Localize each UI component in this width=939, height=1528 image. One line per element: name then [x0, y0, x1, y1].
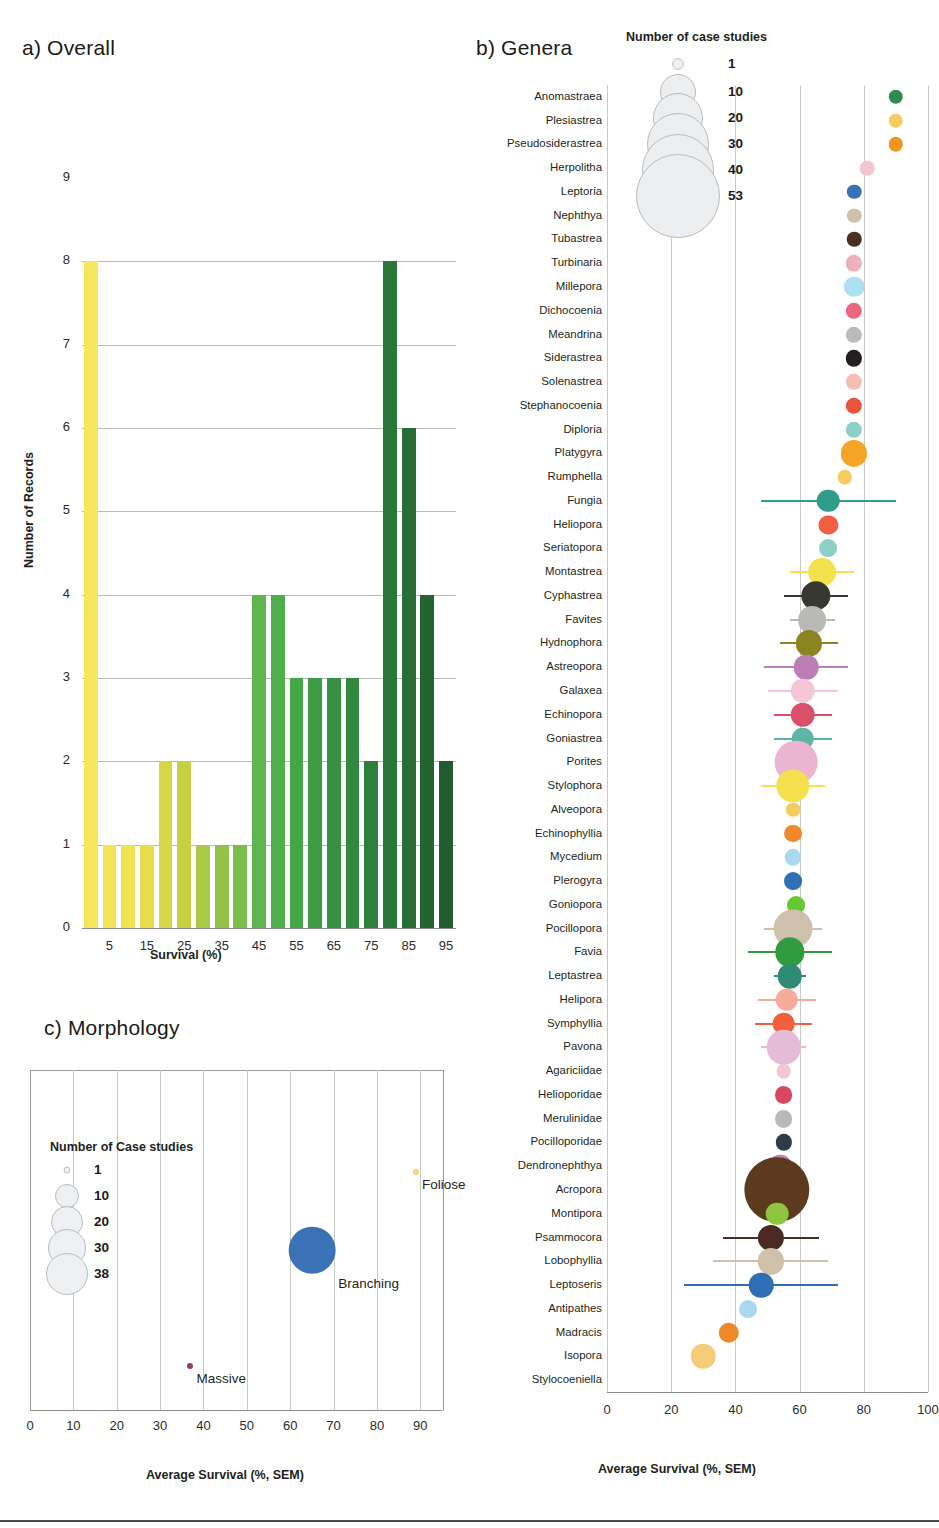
panel-b-bubble — [846, 421, 862, 437]
panel-c-x-tick: 0 — [10, 1418, 50, 1433]
panel-b-legend-bubble — [636, 154, 720, 238]
panel-b-bubble — [846, 303, 862, 319]
panel-a-bar — [196, 845, 210, 928]
panel-b-bubble — [847, 208, 862, 223]
panel-a-title: a) Overall — [22, 36, 115, 60]
panel-a-gridline — [82, 845, 456, 846]
panel-b-genus-label: Isopora — [467, 1350, 602, 1361]
panel-a-y-tick: 6 — [24, 419, 70, 434]
panel-c-gridline — [420, 1070, 421, 1410]
panel-b-genus-label: Heliopora — [467, 519, 602, 530]
panel-b-genus-label: Goniastrea — [467, 733, 602, 744]
panel-a-gridline — [82, 345, 456, 346]
panel-c-x-tick: 90 — [400, 1418, 440, 1433]
panel-a-gridline — [82, 428, 456, 429]
panel-c-morphology: c) Morphology FolioseBranchingMassive Nu… — [0, 1000, 470, 1528]
panel-b-x-tick: 0 — [585, 1402, 629, 1417]
panel-b-bubble — [776, 1064, 791, 1079]
panel-a-x-tick: 25 — [164, 938, 204, 953]
panel-b-bubble — [758, 1248, 784, 1274]
panel-b-genus-label: Leptastrea — [467, 970, 602, 981]
panel-a-gridline — [82, 595, 456, 596]
panel-b-genus-label: Millepora — [467, 281, 602, 292]
panel-b-genus-label: Platygyra — [467, 447, 602, 458]
panel-c-legend-value: 1 — [94, 1162, 102, 1177]
panel-b-x-tick: 60 — [778, 1402, 822, 1417]
panel-b-gridline — [864, 85, 865, 1392]
panel-a-gridline — [82, 761, 456, 762]
panel-b-plot-area — [607, 85, 928, 1392]
panel-b-genus-label: Cyphastrea — [467, 590, 602, 601]
panel-a-bar — [402, 428, 416, 928]
panel-b-genus-label: Rumphella — [467, 471, 602, 482]
panel-b-genus-label: Merulinidae — [467, 1113, 602, 1124]
panel-b-genus-label: Favites — [467, 614, 602, 625]
panel-c-legend-value: 30 — [94, 1240, 109, 1255]
panel-a-y-tick: 1 — [24, 836, 70, 851]
panel-a-bar — [84, 261, 98, 928]
panel-b-genus-label: Astreopora — [467, 661, 602, 672]
panel-b-x-tick: 40 — [713, 1402, 757, 1417]
panel-b-title: b) Genera — [476, 36, 572, 60]
panel-c-gridline — [160, 1070, 161, 1410]
panel-b-genus-label: Diploria — [467, 424, 602, 435]
panel-b-genus-label: Montastrea — [467, 566, 602, 577]
panel-c-point — [413, 1169, 419, 1175]
panel-b-genus-label: Dichocoenia — [467, 305, 602, 316]
panel-a-bar — [103, 845, 117, 928]
panel-b-legend-value: 20 — [728, 110, 743, 125]
panel-b-genus-label: Echinopora — [467, 709, 602, 720]
panel-b-genera: b) Genera AnomastraeaPlesiastreaPseudosi… — [470, 0, 939, 1528]
panel-c-legend-value: 38 — [94, 1266, 109, 1281]
panel-b-bubble — [820, 539, 838, 557]
panel-c-gridline — [247, 1070, 248, 1410]
panel-b-bubble — [766, 1202, 789, 1225]
panel-b-genus-label: Goniopora — [467, 899, 602, 910]
panel-b-genus-label: Antipathes — [467, 1303, 602, 1314]
panel-b-x-axis-line — [607, 1392, 928, 1393]
panel-a-bar — [271, 595, 285, 928]
panel-a-x-tick: 55 — [276, 938, 316, 953]
panel-b-bubble — [846, 374, 862, 390]
panel-b-bubble — [791, 702, 816, 727]
panel-b-legend-title: Number of case studies — [626, 30, 767, 44]
panel-c-title: c) Morphology — [44, 1016, 180, 1040]
panel-b-bubble — [889, 90, 904, 105]
panel-b-genus-label: Nephthya — [467, 210, 602, 221]
panel-a-bar — [308, 678, 322, 928]
panel-b-genus-label: Pavona — [467, 1041, 602, 1052]
panel-b-bubble — [847, 185, 862, 200]
panel-a-y-tick: 4 — [24, 586, 70, 601]
panel-b-legend-value: 53 — [728, 188, 743, 203]
panel-b-genus-label: Psammocora — [467, 1232, 602, 1243]
panel-a-y-tick: 3 — [24, 669, 70, 684]
panel-b-bubble — [846, 350, 862, 366]
panel-c-frame — [30, 1070, 444, 1411]
panel-b-genus-label: Herpolitha — [467, 162, 602, 173]
panel-c-x-tick: 50 — [227, 1418, 267, 1433]
panel-b-bubble — [739, 1300, 757, 1318]
panel-a-bar — [177, 761, 191, 928]
panel-b-genus-label: Helipora — [467, 994, 602, 1005]
panel-b-bubble — [775, 1110, 793, 1128]
panel-c-legend-bubble — [64, 1167, 71, 1174]
panel-b-bubble — [775, 1086, 793, 1104]
panel-a-bar — [364, 761, 378, 928]
panel-b-x-tick: 100 — [906, 1402, 939, 1417]
panel-b-genus-label: Seriatopora — [467, 542, 602, 553]
panel-b-bubble — [846, 326, 862, 342]
panel-b-bubble — [860, 161, 875, 176]
panel-b-bubble — [819, 515, 838, 534]
panel-b-bubble — [889, 137, 904, 152]
panel-a-bar — [290, 678, 304, 928]
panel-b-genus-label: Mycedium — [467, 851, 602, 862]
panel-b-genus-label: Turbinaria — [467, 257, 602, 268]
panel-a-plot-area — [82, 178, 456, 928]
panel-b-bubble — [784, 872, 802, 890]
panel-b-bubble — [817, 490, 840, 513]
panel-b-gridline — [671, 85, 672, 1392]
panel-a-bar — [121, 845, 135, 928]
panel-a-gridline — [82, 261, 456, 262]
figure-coral-survival: a) Overall Number of Records Survival (%… — [0, 0, 939, 1528]
panel-b-genus-label: Leptoseris — [467, 1279, 602, 1290]
